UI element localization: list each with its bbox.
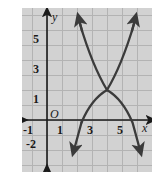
x-axis-label: x bbox=[142, 122, 147, 134]
x-tick-1: 1 bbox=[57, 124, 63, 136]
y-tick-3: 3 bbox=[33, 63, 39, 75]
x-tick-3: 3 bbox=[87, 124, 93, 136]
y-axis-label: y bbox=[52, 11, 57, 23]
y-tick-1: 1 bbox=[33, 93, 39, 105]
curve-upward-parabola-left-tip bbox=[79, 19, 82, 31]
x-tick-5: 5 bbox=[117, 124, 123, 136]
y-tick-neg2: -2 bbox=[26, 138, 36, 150]
y-tick-5: 5 bbox=[33, 33, 39, 45]
plot-area bbox=[22, 8, 152, 172]
curve-downward-parabola-left-tail bbox=[74, 123, 82, 151]
axis-lines bbox=[23, 12, 151, 169]
plotted-curves bbox=[22, 8, 152, 172]
x-tick-neg1: -1 bbox=[23, 124, 33, 136]
origin-label: O bbox=[50, 108, 59, 120]
curve-upward-parabola bbox=[80, 24, 134, 90]
curve-upward-parabola-right-tip bbox=[132, 19, 135, 31]
graph-figure: y x O 5 3 1 -2 -1 1 3 5 bbox=[0, 0, 163, 181]
